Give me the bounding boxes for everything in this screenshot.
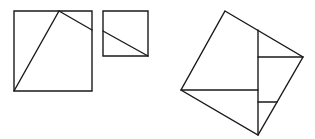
large-square-figure [14, 11, 92, 91]
small-square-figure [103, 11, 148, 56]
large-square-cut-line-2 [59, 11, 92, 30]
tilted-square-figure [181, 11, 303, 135]
large-square-cut-line-1 [14, 11, 59, 91]
dissection-diagram [0, 0, 315, 139]
small-square-outline [103, 11, 148, 56]
small-square-cut-line-1 [103, 31, 148, 56]
tilted-square-outline [181, 11, 303, 135]
